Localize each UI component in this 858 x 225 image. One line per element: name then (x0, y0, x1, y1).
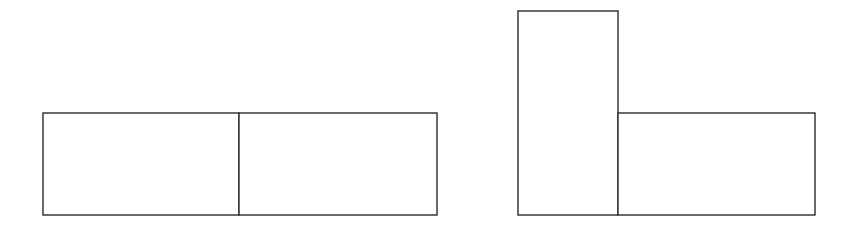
figure-right-l-shape (518, 11, 815, 215)
right-rect-wide (618, 113, 815, 215)
figure-left-horizontal-pair (43, 113, 437, 215)
figures-group (43, 11, 815, 215)
diagram-canvas (0, 0, 858, 225)
right-rect-tall (518, 11, 618, 215)
left-rect-a (43, 113, 239, 215)
left-rect-b (239, 113, 437, 215)
